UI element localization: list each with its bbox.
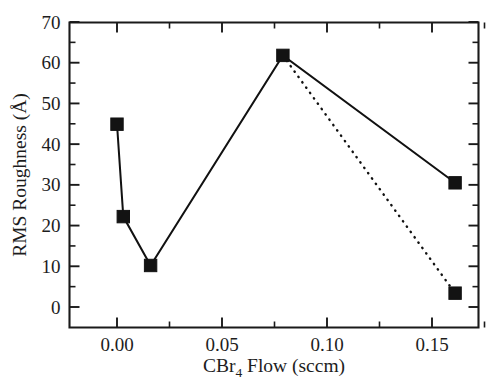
y-tick-label: 60 — [42, 52, 61, 73]
figure-background — [0, 0, 503, 391]
y-tick-label: 70 — [42, 12, 61, 33]
data-point-marker — [449, 287, 461, 299]
y-tick-label: 20 — [42, 215, 61, 236]
data-point-marker — [117, 210, 129, 222]
y-axis-title: RMS Roughness (Å) — [9, 93, 31, 257]
y-tick-label: 10 — [42, 256, 61, 277]
y-tick-label: 40 — [42, 134, 61, 155]
x-tick-label: 0.05 — [205, 334, 238, 355]
y-tick-label: 30 — [42, 174, 61, 195]
data-point-marker — [449, 177, 461, 189]
data-point-marker — [277, 49, 289, 61]
x-tick-label: 0.15 — [415, 334, 448, 355]
y-axis-title-text: RMS Roughness (Å) — [9, 93, 31, 257]
chart-figure: 010203040506070 0.000.050.100.15 RMS Rou… — [0, 0, 503, 391]
data-point-marker — [144, 259, 156, 271]
x-tick-label: 0.10 — [310, 334, 343, 355]
y-tick-label: 50 — [42, 93, 61, 114]
data-point-marker — [111, 118, 123, 130]
chart-canvas: 010203040506070 0.000.050.100.15 RMS Rou… — [0, 0, 503, 391]
y-tick-label: 0 — [51, 297, 61, 318]
x-tick-label: 0.00 — [100, 334, 133, 355]
